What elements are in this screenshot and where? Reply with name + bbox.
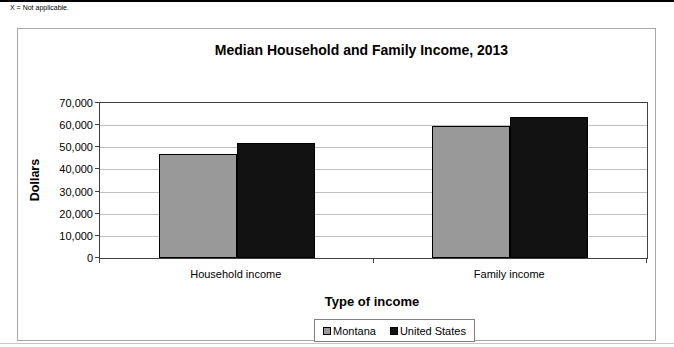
bar-united-states-family-income [510,117,588,258]
y-tick-label-2: 20,000 [33,208,93,220]
y-tick-label-0: 0 [33,252,93,264]
y-tick-label-3: 30,000 [33,186,93,198]
y-tick-label-6: 60,000 [33,119,93,131]
chart-page: X = Not applicable. Median Household and… [0,0,674,347]
category-label-family-income: Family income [399,268,619,280]
x-tick-mark-2 [646,259,647,263]
chart-frame: Median Household and Family Income, 2013… [17,28,656,341]
x-tick-mark-0 [99,259,100,263]
y-tick-mark-5 [95,146,99,147]
y-tick-mark-4 [95,168,99,169]
chart-title: Median Household and Family Income, 2013 [66,42,657,58]
y-tick-mark-7 [95,102,99,103]
y-tick-label-7: 70,000 [33,97,93,109]
legend-label-montana: Montana [333,325,376,337]
bar-montana-family-income [432,126,510,258]
legend: MontanaUnited States [314,319,475,342]
y-tick-label-1: 10,000 [33,230,93,242]
y-tick-mark-6 [95,124,99,125]
y-tick-mark-3 [95,191,99,192]
y-tick-label-5: 50,000 [33,141,93,153]
y-tick-label-4: 40,000 [33,163,93,175]
bottom-divider [0,343,674,344]
legend-swatch-united-states-icon [390,327,398,335]
y-tick-mark-2 [95,213,99,214]
bar-united-states-household-income [237,143,315,258]
x-tick-mark-1 [373,259,374,263]
footnote: X = Not applicable. [10,4,69,11]
plot-area [99,102,648,259]
legend-item-montana: Montana [323,325,376,337]
legend-swatch-montana-icon [323,327,331,335]
top-divider [0,0,674,2]
y-tick-mark-0 [95,257,99,258]
legend-item-united-states: United States [390,325,466,337]
legend-label-united-states: United States [400,325,466,337]
bar-montana-household-income [159,154,237,258]
y-tick-mark-1 [95,235,99,236]
category-label-household-income: Household income [126,268,346,280]
x-axis-title: Type of income [222,294,522,309]
